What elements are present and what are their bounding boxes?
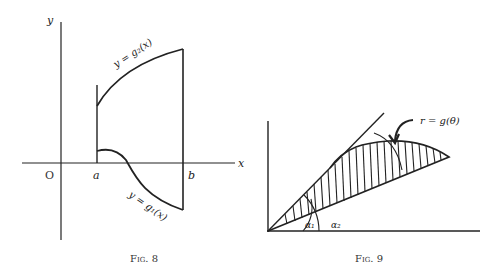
figure-9-caption: Fig. 9 (355, 253, 383, 264)
figure-9 (267, 113, 480, 232)
figures-canvas: y x O a b y = g₂(x) y = g₁(x) Fig. 8 (0, 0, 496, 274)
polar-curve-label: r = g(θ) (420, 115, 460, 126)
origin-label: O (45, 169, 54, 182)
upper-curve (97, 49, 183, 106)
hatching (285, 141, 441, 224)
alpha2-label: α₂ (331, 220, 341, 230)
x-axis-label: x (238, 157, 245, 170)
figure-8-caption: Fig. 8 (130, 253, 158, 264)
tick-a: a (93, 169, 100, 182)
tick-b: b (188, 169, 195, 182)
ray-alpha2 (268, 113, 384, 231)
upper-curve-label: y = g₂(x) (110, 36, 154, 70)
alpha1-label: α₁ (305, 220, 315, 230)
lower-curve-label: y = g₁(x) (126, 188, 169, 223)
y-axis-label: y (46, 14, 54, 27)
polar-curve (268, 141, 449, 231)
